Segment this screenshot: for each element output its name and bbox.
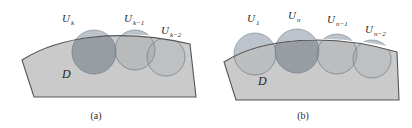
label-u1-sub: 1 <box>256 19 260 27</box>
domain-label-a: D <box>61 67 71 81</box>
figure-container: D U k U k−1 U k−2 (a) <box>0 0 412 128</box>
label-uk1-base: U <box>124 12 133 24</box>
label-uk2-base: U <box>161 24 170 36</box>
label-uk1-sub: k−1 <box>133 19 144 27</box>
caption-a: (a) <box>90 110 101 122</box>
label-un1-sub: n−1 <box>336 20 348 28</box>
caption-b: (b) <box>297 110 309 122</box>
label-un2-base: U <box>365 23 374 35</box>
label-un-sub: n <box>297 16 301 24</box>
label-uk-base: U <box>62 12 71 24</box>
circle-uk2-lower <box>147 38 185 76</box>
figure-svg: D U k U k−1 U k−2 (a) <box>0 0 412 128</box>
domain-label-b: D <box>257 74 267 88</box>
label-u1-base: U <box>247 12 256 24</box>
label-un-base: U <box>288 9 297 21</box>
label-un1-base: U <box>327 13 336 25</box>
label-un2-sub: n−2 <box>374 30 386 38</box>
label-uk2-sub: k−2 <box>170 31 182 39</box>
